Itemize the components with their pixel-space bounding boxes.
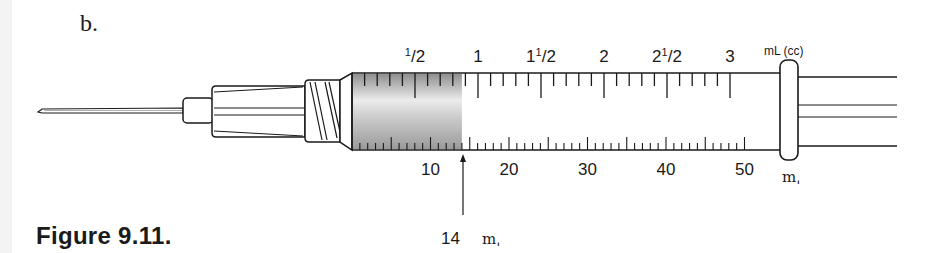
minim-scale-labels: 1020304050 bbox=[421, 160, 754, 179]
luer-lock-collar bbox=[305, 80, 340, 142]
ml-scale-label: 21/2 bbox=[652, 46, 682, 66]
ml-scale-label: 11/2 bbox=[526, 46, 556, 66]
ml-scale-labels: 1/2111/2221/23 bbox=[405, 46, 735, 66]
needle-hub-body bbox=[212, 86, 305, 137]
figure-caption: Figure 9.11. bbox=[36, 222, 172, 250]
minim-scale-label: 40 bbox=[657, 160, 676, 179]
medication-fill bbox=[353, 74, 462, 149]
ml-scale-label: 1 bbox=[473, 47, 482, 66]
needle bbox=[38, 108, 183, 113]
ml-scale-label: 3 bbox=[725, 47, 734, 66]
needle-hub-tip bbox=[183, 98, 213, 123]
syringe-diagram: 1/2111/2221/23 1020304050 mL (cc) mˌ 14 … bbox=[0, 0, 946, 253]
minim-scale-label: 50 bbox=[735, 160, 754, 179]
plunger bbox=[798, 77, 897, 146]
fill-amount-value: 14 bbox=[441, 229, 460, 248]
minim-scale-label: 10 bbox=[421, 160, 440, 179]
minim-scale-label: 20 bbox=[500, 160, 519, 179]
minim-unit-label: mˌ bbox=[782, 168, 800, 186]
ml-scale-label: 1/2 bbox=[405, 46, 425, 66]
ml-scale-label: 2 bbox=[599, 47, 608, 66]
minim-scale-label: 30 bbox=[578, 160, 597, 179]
barrel-taper bbox=[340, 73, 352, 150]
ml-unit-label: mL (cc) bbox=[764, 44, 804, 58]
fill-arrow-annotation bbox=[460, 154, 466, 215]
syringe-flange bbox=[780, 60, 798, 160]
fill-amount-unit: mˌ bbox=[482, 230, 500, 248]
